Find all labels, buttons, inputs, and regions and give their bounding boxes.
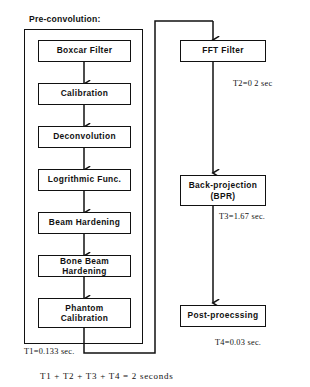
node-bone-beam-hardening[interactable]: Bone Beam Hardening [38,255,131,277]
node-logrithmic-func[interactable]: Logrithmic Func. [38,169,131,191]
node-beam-hardening[interactable]: Beam Hardening [38,212,131,234]
pre-convolution-caption: Pre-convolution: [28,14,101,24]
node-logrithmic-func-label: Logrithmic Func. [48,175,122,185]
node-back-projection-label: Back-projection (BPR) [189,180,258,201]
node-post-processing-label: Post-proecssing [188,311,259,321]
node-calibration[interactable]: Calibration [38,83,131,105]
node-boxcar-filter[interactable]: Boxcar Filter [38,40,131,62]
total-time-label: T1 + T2 + T3 + T4 = 2 seconds [40,371,173,381]
timing-label-t2: T2=0 2 sec [233,79,272,88]
flowchart-canvas: Pre-convolution: Boxcar Filter Calibrati… [0,0,310,387]
node-post-processing[interactable]: Post-proecssing [180,305,266,327]
node-phantom-calibration[interactable]: Phantom Calibration [38,298,131,328]
node-back-projection[interactable]: Back-projection (BPR) [180,175,266,206]
node-bone-beam-hardening-label: Bone Beam Hardening [60,256,109,277]
timing-label-t1: T1=0.133 sec. [24,347,75,356]
timing-label-t4: T4=0.03 sec. [215,338,261,347]
node-calibration-label: Calibration [61,89,109,99]
node-boxcar-filter-label: Boxcar Filter [57,46,113,56]
node-deconvolution-label: Deconvolution [53,132,116,142]
node-fft-filter-label: FFT Filter [202,46,244,56]
node-deconvolution[interactable]: Deconvolution [38,126,131,148]
node-beam-hardening-label: Beam Hardening [49,218,120,228]
node-fft-filter[interactable]: FFT Filter [180,40,266,62]
timing-label-t3: T3=1.67 sec. [219,212,265,221]
node-phantom-calibration-label: Phantom Calibration [61,303,109,324]
